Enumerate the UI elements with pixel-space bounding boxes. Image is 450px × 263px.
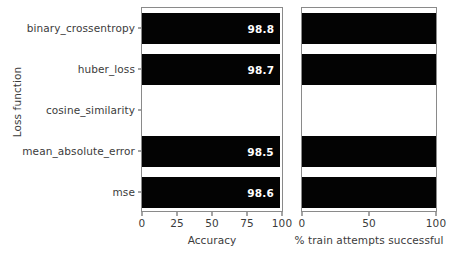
y-tick-label-cosine_similarity: cosine_similarity (46, 104, 135, 116)
y-tick-mark (138, 150, 142, 151)
y-tick-mark (138, 109, 142, 110)
x-tick-mark (142, 212, 143, 216)
x-tick-mark (247, 212, 248, 216)
x-tick-mark (177, 212, 178, 216)
bar-value-label-mse: 98.6 (247, 187, 274, 199)
y-tick-mark (138, 27, 142, 28)
x-tick-label: 0 (139, 217, 146, 229)
accuracy-plot-area: 98.898.798.598.6 (141, 7, 283, 212)
bar-value-label-huber_loss: 98.7 (247, 64, 274, 76)
x-tick-label: 25 (170, 217, 184, 229)
x-tick-label: 100 (426, 217, 446, 229)
x-tick-mark (282, 212, 283, 216)
bar-mean_absolute_error (302, 136, 436, 168)
y-tick-label-mean_absolute_error: mean_absolute_error (22, 145, 135, 157)
x-tick-mark (369, 212, 370, 216)
bar-value-label-mean_absolute_error: 98.5 (247, 146, 274, 158)
y-tick-mark (138, 191, 142, 192)
y-tick-label-mse: mse (113, 186, 135, 198)
y-tick-label-group: binary_crossentropyhuber_losscosine_simi… (0, 0, 135, 263)
bar-huber_loss (302, 54, 436, 86)
x-tick-label: 0 (299, 217, 306, 229)
x-tick-label: 75 (240, 217, 254, 229)
bar-binary_crossentropy (302, 13, 436, 45)
bar-value-label-binary_crossentropy: 98.8 (248, 23, 275, 35)
y-tick-mark (138, 68, 142, 69)
x-tick-mark (212, 212, 213, 216)
x-tick-label: 50 (205, 217, 219, 229)
x-tick-label: 50 (362, 217, 376, 229)
x-tick-label: 100 (272, 217, 292, 229)
y-tick-label-binary_crossentropy: binary_crossentropy (27, 22, 135, 34)
train-success-plot-area (301, 7, 437, 212)
figure-canvas: Loss function binary_crossentropyhuber_l… (0, 0, 450, 263)
bar-mse (302, 177, 436, 209)
x-axis-label-train-success-panel: % train attempts successful (294, 234, 443, 246)
x-axis-label-accuracy-panel: Accuracy (188, 234, 237, 246)
x-tick-mark (436, 212, 437, 216)
y-tick-label-huber_loss: huber_loss (78, 63, 135, 75)
x-tick-mark (302, 212, 303, 216)
